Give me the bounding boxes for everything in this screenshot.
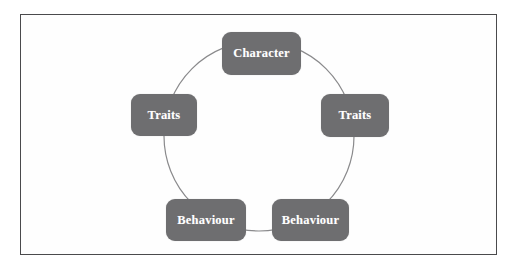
- node-behaviour-right[interactable]: Behaviour: [272, 199, 349, 241]
- node-traits-right[interactable]: Traits: [321, 94, 389, 137]
- node-character[interactable]: Character: [222, 32, 301, 75]
- node-behaviour-right-label: Behaviour: [282, 214, 339, 227]
- node-behaviour-left-label: Behaviour: [177, 214, 234, 227]
- node-character-label: Character: [233, 47, 290, 60]
- diagram-canvas: Character Traits Behaviour Behaviour Tra…: [0, 0, 515, 270]
- node-behaviour-left[interactable]: Behaviour: [166, 199, 246, 241]
- node-traits-left-label: Traits: [148, 109, 181, 122]
- node-traits-right-label: Traits: [339, 109, 372, 122]
- node-traits-left[interactable]: Traits: [131, 94, 197, 136]
